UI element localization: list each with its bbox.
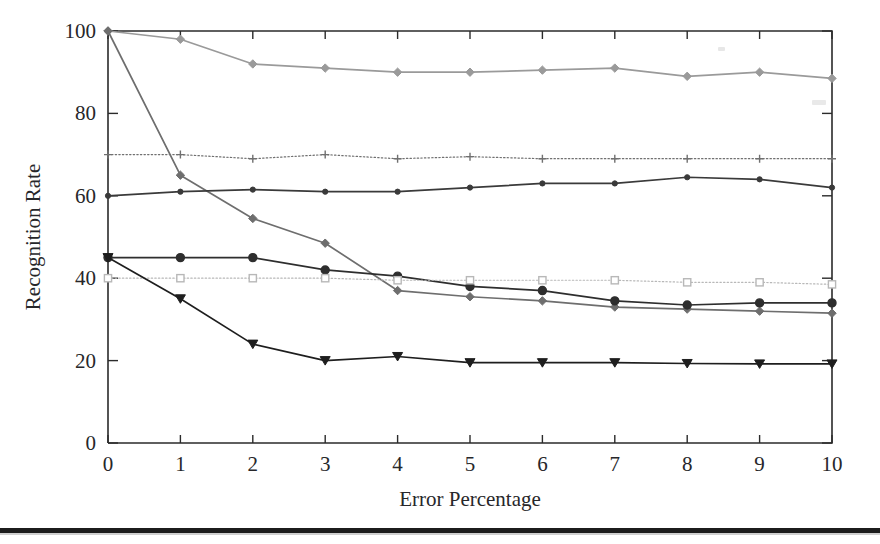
plot-frame bbox=[108, 31, 832, 443]
data-point-marker bbox=[611, 64, 619, 72]
y-tick-label: 80 bbox=[75, 101, 96, 125]
data-point-marker bbox=[683, 72, 691, 80]
data-point-marker bbox=[249, 275, 256, 282]
data-point-marker bbox=[177, 275, 184, 282]
data-point-marker bbox=[176, 151, 184, 159]
data-point-marker bbox=[756, 155, 764, 163]
data-point-marker bbox=[828, 74, 836, 82]
data-point-marker bbox=[611, 297, 619, 305]
data-point-marker bbox=[828, 309, 836, 317]
chart-figure: 012345678910020406080100Error Percentage… bbox=[0, 0, 880, 544]
data-point-marker bbox=[176, 35, 184, 43]
data-point-marker bbox=[466, 277, 473, 284]
data-point-marker bbox=[394, 155, 402, 163]
x-tick-label: 8 bbox=[682, 452, 693, 476]
data-point-marker bbox=[249, 155, 257, 163]
data-point-marker bbox=[323, 189, 328, 194]
data-point-marker bbox=[756, 279, 763, 286]
x-tick-label: 7 bbox=[610, 452, 621, 476]
data-point-marker bbox=[393, 68, 401, 76]
data-point-marker bbox=[685, 175, 690, 180]
y-axis-label: Recognition Rate bbox=[21, 164, 45, 310]
data-point-marker bbox=[321, 151, 329, 159]
data-point-marker bbox=[683, 301, 691, 309]
x-axis-label: Error Percentage bbox=[399, 487, 541, 511]
data-point-marker bbox=[395, 189, 400, 194]
x-tick-label: 6 bbox=[537, 452, 548, 476]
series-group bbox=[103, 27, 837, 369]
data-point-marker bbox=[755, 68, 763, 76]
labels-group: 012345678910020406080100Error Percentage… bbox=[21, 19, 843, 511]
data-point-marker bbox=[394, 277, 401, 284]
data-point-marker bbox=[683, 155, 691, 163]
y-tick-label: 0 bbox=[86, 431, 97, 455]
data-point-marker bbox=[104, 275, 111, 282]
data-point-marker bbox=[104, 151, 112, 159]
data-point-marker bbox=[538, 155, 546, 163]
data-point-marker bbox=[612, 181, 617, 186]
y-tick-label: 40 bbox=[75, 266, 96, 290]
x-tick-label: 9 bbox=[754, 452, 765, 476]
data-point-marker bbox=[466, 68, 474, 76]
data-point-marker bbox=[611, 277, 618, 284]
data-point-marker bbox=[538, 287, 546, 295]
data-point-marker bbox=[176, 254, 184, 262]
line-chart-svg: 012345678910020406080100Error Percentage… bbox=[0, 0, 880, 544]
page-bottom-rule-secondary bbox=[0, 533, 880, 535]
data-point-marker bbox=[176, 171, 184, 179]
y-tick-label: 20 bbox=[75, 349, 96, 373]
x-tick-label: 1 bbox=[175, 452, 186, 476]
data-point-marker bbox=[322, 275, 329, 282]
data-point-marker bbox=[249, 60, 257, 68]
data-point-marker bbox=[539, 277, 546, 284]
x-tick-label: 2 bbox=[248, 452, 259, 476]
data-point-marker bbox=[466, 293, 474, 301]
data-point-marker bbox=[178, 189, 183, 194]
data-point-marker bbox=[538, 297, 546, 305]
data-point-marker bbox=[175, 295, 185, 304]
scan-speck-top bbox=[718, 47, 725, 51]
data-point-marker bbox=[538, 66, 546, 74]
data-point-marker bbox=[828, 155, 836, 163]
x-tick-label: 3 bbox=[320, 452, 331, 476]
data-point-marker bbox=[828, 281, 835, 288]
data-point-marker bbox=[611, 155, 619, 163]
series-3 bbox=[104, 151, 836, 163]
scan-speck-right bbox=[812, 100, 826, 105]
data-point-marker bbox=[467, 185, 472, 190]
data-point-marker bbox=[249, 254, 257, 262]
data-point-marker bbox=[105, 193, 110, 198]
x-tick-label: 10 bbox=[822, 452, 843, 476]
data-point-marker bbox=[540, 181, 545, 186]
data-point-marker bbox=[321, 64, 329, 72]
data-point-marker bbox=[393, 286, 401, 294]
data-point-marker bbox=[321, 266, 329, 274]
data-point-marker bbox=[104, 27, 112, 35]
data-point-marker bbox=[756, 299, 764, 307]
data-point-marker bbox=[828, 299, 836, 307]
data-point-marker bbox=[757, 177, 762, 182]
data-point-marker bbox=[466, 153, 474, 161]
data-point-marker bbox=[249, 214, 257, 222]
axes-group bbox=[108, 31, 832, 443]
data-point-marker bbox=[684, 279, 691, 286]
y-tick-label: 100 bbox=[65, 19, 97, 43]
data-point-marker bbox=[250, 187, 255, 192]
y-tick-label: 60 bbox=[75, 184, 96, 208]
data-point-marker bbox=[755, 307, 763, 315]
x-tick-label: 5 bbox=[465, 452, 476, 476]
data-point-marker bbox=[321, 239, 329, 247]
x-tick-label: 0 bbox=[103, 452, 114, 476]
x-tick-label: 4 bbox=[392, 452, 403, 476]
data-point-marker bbox=[829, 185, 834, 190]
